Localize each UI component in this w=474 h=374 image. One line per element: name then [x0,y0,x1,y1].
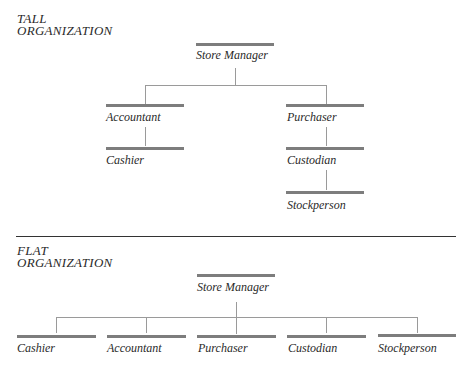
connector-line [326,127,327,146]
flat-organization-title: FLAT ORGANIZATION [17,245,113,269]
node-label: Purchaser [198,341,248,356]
node-bar [107,335,186,338]
connector-line [326,317,327,333]
connector-line [145,127,146,146]
node-bar [197,335,276,338]
node-label: Custodian [288,341,337,356]
node-bar [286,147,364,150]
node-bar [286,104,364,107]
node-bar [197,274,275,277]
node-bar [106,147,184,150]
connector-line [236,302,237,334]
node-label: Cashier [106,153,144,168]
title-line: ORGANIZATION [17,25,113,37]
node-label: Accountant [106,110,161,125]
node-label: Store Manager [196,48,268,63]
node-label: Stockperson [378,341,437,356]
node-bar [196,43,274,46]
connector-line [326,85,327,104]
connector-line [56,317,57,333]
connector-line [326,170,327,190]
node-label: Accountant [107,341,162,356]
title-line: ORGANIZATION [17,257,113,269]
node-bar [286,191,364,194]
connector-line [417,317,418,333]
node-label: Stockperson [287,198,346,213]
node-bar [17,335,96,338]
node-bar [378,334,456,337]
node-bar [287,335,366,338]
section-divider [16,236,456,237]
node-label: Purchaser [287,110,337,125]
connector-line [235,68,236,86]
connector-line [56,317,418,318]
connector-line [145,85,146,104]
node-label: Custodian [287,153,336,168]
node-label: Cashier [17,341,55,356]
connector-line [146,317,147,333]
connector-line [145,85,327,86]
tall-organization-title: TALL ORGANIZATION [17,13,113,37]
node-bar [106,104,184,107]
node-label: Store Manager [197,280,269,295]
